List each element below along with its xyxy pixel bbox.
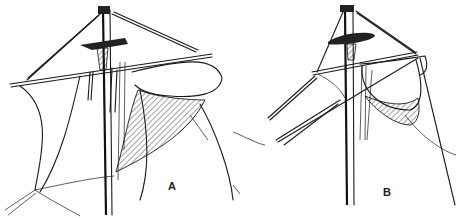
panel-b-drawing <box>233 5 456 205</box>
panel-a-label: A <box>168 180 176 192</box>
panel-a-drawing <box>5 6 233 216</box>
illustration <box>0 0 466 218</box>
panel-b-label: B <box>383 186 391 198</box>
